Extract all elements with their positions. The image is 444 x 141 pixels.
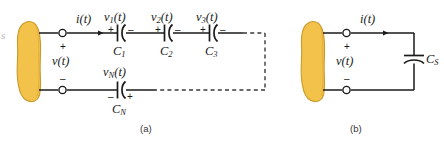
c1-minus-sign: – [128, 25, 134, 35]
capacitor-c2-symbol [165, 25, 173, 42]
circuit-schematic-canvas [0, 0, 444, 141]
terminal-top-a [59, 29, 66, 36]
capacitor-c3-symbol [210, 25, 218, 42]
c1-plus-sign: + [108, 25, 114, 35]
c3-minus-sign: – [220, 25, 226, 35]
voltage-label-c3: v3(t) [196, 11, 218, 25]
current-label-a: i(t) [76, 13, 91, 26]
cn-plus-sign: + [127, 92, 133, 102]
subfigure-label-a: (a) [140, 124, 152, 134]
voltage-label-c1: v1(t) [104, 11, 126, 25]
subfigure-label-b: (b) [350, 124, 362, 134]
capacitor-cs-symbol [404, 56, 424, 64]
source-blob-b [301, 22, 324, 102]
source-minus-a: – [60, 74, 66, 84]
capacitor-c2-label: C2 [160, 45, 173, 59]
c2-minus-sign: – [175, 25, 181, 35]
c3-plus-sign: + [200, 25, 206, 35]
capacitor-c3-label: C3 [205, 45, 218, 59]
capacitor-c1-symbol [118, 25, 126, 42]
capacitors-in-series-figure: s i(t) + v(t) – v1(t) + – C1 v2(t) + – C… [0, 0, 444, 141]
capacitor-cs-label: CS [426, 53, 439, 67]
cn-minus-sign: – [108, 92, 114, 102]
source-plus-b: + [344, 42, 350, 52]
terminal-top-b [343, 29, 350, 36]
source-minus-b: – [344, 74, 350, 84]
voltage-label-cn: vN(t) [103, 66, 126, 80]
source-voltage-label-a: v(t) [52, 55, 69, 68]
current-label-b: i(t) [360, 13, 375, 26]
source-blob-a [17, 22, 40, 102]
voltage-label-c2: v2(t) [151, 11, 173, 25]
c2-plus-sign: + [155, 25, 161, 35]
capacitor-cn-symbol [118, 82, 126, 99]
capacitor-c1-label: C1 [113, 45, 126, 59]
source-plus-a: + [60, 42, 66, 52]
source-voltage-label-b: v(t) [336, 55, 353, 68]
terminal-bottom-a [59, 86, 66, 93]
top-wire-b [323, 33, 414, 55]
edge-artifact-text: s [1, 30, 5, 41]
capacitor-cn-label: CN [112, 103, 126, 117]
terminal-bottom-b [343, 86, 350, 93]
